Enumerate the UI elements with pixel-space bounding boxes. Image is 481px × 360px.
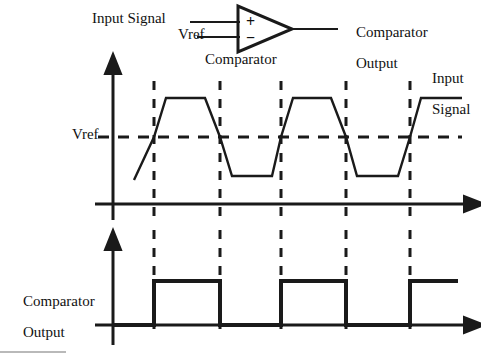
waveform-input-signal-line2: Signal <box>432 101 470 117</box>
vref-threshold-label: Vref <box>72 127 99 142</box>
schematic-vref-label: Vref <box>178 27 205 42</box>
waveform-input-signal-line1: Input <box>432 70 464 86</box>
schematic-device-label: Comparator <box>205 52 277 67</box>
comparator-output-plot-line1: Comparator <box>23 293 95 309</box>
comparator-plus-terminal: + <box>246 14 255 30</box>
comparator-output-plot-line2: Output <box>23 324 65 340</box>
waveform-input-signal-label: Input Signal <box>417 56 470 132</box>
comparator-minus-terminal: − <box>246 30 255 46</box>
comparator-output-waveform <box>113 281 458 325</box>
schematic-output-label-line1: Comparator <box>356 24 428 40</box>
schematic-output-label-line2: Output <box>356 55 398 71</box>
schematic-input-signal-label: Input Signal <box>92 11 166 26</box>
comparator-output-plot-label: Comparator Output <box>8 279 95 355</box>
comparator-schematic <box>190 6 338 52</box>
input-signal-waveform <box>134 98 462 180</box>
schematic-output-label: Comparator Output <box>341 10 428 86</box>
figure-canvas: Input Signal Vref Comparator Output Comp… <box>0 0 481 360</box>
